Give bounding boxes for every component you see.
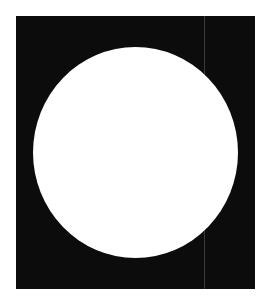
black-panel [16, 16, 255, 289]
figure-canvas [0, 0, 266, 298]
white-circle [33, 47, 238, 258]
